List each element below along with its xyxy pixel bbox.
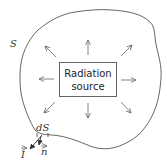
- radiation-diagram: S Radiation source dS I n: [0, 0, 167, 168]
- source-label-line1: Radiation: [64, 68, 111, 79]
- vector-n-label: n: [41, 146, 47, 157]
- source-label-line2: source: [71, 81, 104, 92]
- arrow-down-left: [44, 102, 55, 113]
- arrow-up-left: [45, 46, 56, 57]
- arrow-down-right: [121, 102, 131, 113]
- surface-label: S: [10, 38, 17, 49]
- vector-i-label: I: [20, 149, 26, 160]
- arrow-up-right: [121, 45, 132, 56]
- element-ds-label: dS: [36, 122, 49, 133]
